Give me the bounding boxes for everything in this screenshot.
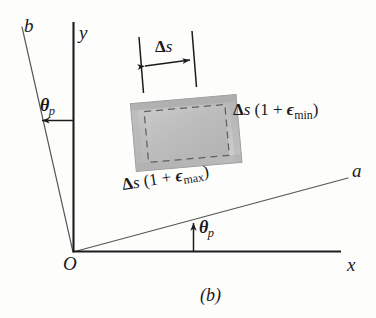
theta-glyph: θ (40, 95, 49, 115)
dimension-tick-right (192, 31, 197, 87)
figure-caption: (b) (200, 286, 221, 304)
close-paren: ) (313, 100, 319, 119)
x-axis-label: x (347, 255, 355, 274)
min-subscript: min (294, 108, 313, 122)
theta-subscript: p (208, 226, 214, 240)
theta-p-upper-label: θp (40, 96, 55, 117)
strain-element-figure: b y a x O θp θp Δs Δs (1 + ϵmin) Δs (1 +… (0, 0, 376, 318)
delta-glyph: Δ (233, 100, 244, 119)
figure-canvas (0, 0, 376, 318)
s-glyph: s (166, 37, 173, 56)
theta-subscript: p (49, 104, 55, 118)
a-axis-line (73, 178, 348, 252)
delta-s-dimension-label: Δs (155, 38, 172, 55)
theta-p-lower-label: θp (199, 218, 214, 239)
a-axis-label: a (352, 161, 362, 180)
theta-glyph: θ (199, 217, 208, 237)
y-axis-label: y (79, 23, 87, 42)
b-axis-line (22, 27, 73, 252)
origin-label: O (63, 254, 77, 273)
element-inner-texture (148, 109, 224, 159)
open-paren-plus-one: (1 + (138, 167, 177, 191)
min-strain-label: Δs (1 + ϵmin) (233, 101, 318, 121)
dimension-tick-left (139, 37, 144, 93)
dimension-arrow-delta-s (145, 60, 190, 66)
b-axis-label: b (24, 16, 34, 35)
deformed-element (130, 95, 242, 172)
open-paren-plus-one: (1 + (250, 100, 287, 119)
delta-glyph: Δ (155, 37, 166, 56)
